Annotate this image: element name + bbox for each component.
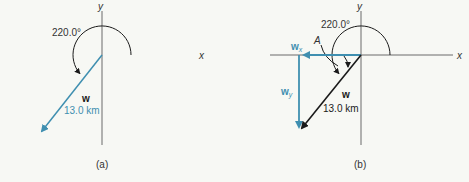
caption-a: (a) (96, 159, 108, 170)
angle-a-label: A (313, 35, 321, 46)
panel-b: y x 220.0° A wx wy w 13.0 km (b) (270, 1, 463, 170)
vector-diagram: y x 220.0° w 13.0 km (a) y x 220.0° A (0, 0, 469, 182)
wx-sub: x (298, 46, 303, 53)
vector-w (42, 55, 102, 131)
vector-magnitude: 13.0 km (64, 105, 100, 116)
panel-a: y x 220.0° w 13.0 km (a) (10, 1, 205, 170)
vector-magnitude: 13.0 km (323, 103, 359, 114)
wy-main: w (280, 86, 289, 97)
y-axis-label: y (97, 1, 104, 12)
angle-a-arc (344, 56, 348, 67)
vector-name: w (81, 93, 90, 104)
y-axis-label: y (356, 1, 363, 12)
wx-label: wx (290, 41, 303, 53)
angle-label: 220.0° (52, 27, 81, 38)
wy-sub: y (288, 91, 293, 99)
diagram-canvas: y x 220.0° w 13.0 km (a) y x 220.0° A (0, 0, 469, 182)
x-axis-label: x (456, 50, 463, 61)
wy-label: wy (280, 86, 293, 99)
wx-main: w (290, 41, 299, 52)
angle-label: 220.0° (321, 19, 350, 30)
x-axis-label: x (198, 50, 205, 61)
caption-b: (b) (354, 159, 366, 170)
vector-w (302, 55, 361, 128)
vector-name: w (341, 89, 350, 100)
